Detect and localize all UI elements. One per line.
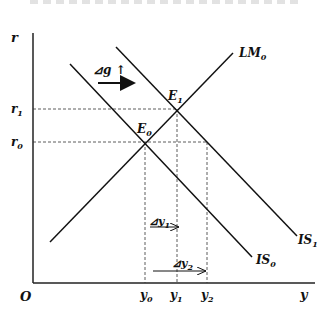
e1-label: E1 xyxy=(167,89,183,105)
r1-label: r1 xyxy=(11,102,23,118)
lm0-curve xyxy=(50,53,233,242)
is0-label: IS0 xyxy=(255,253,276,269)
y1-label: y1 xyxy=(169,288,183,304)
delta-y1-label: ⊿y1 xyxy=(149,215,170,230)
delta-g-label: ⊿g ↑ xyxy=(93,63,126,77)
y-axis-label: r xyxy=(11,30,19,45)
delta-y2-label: ⊿y2 xyxy=(172,257,193,272)
e0-label: E0 xyxy=(136,122,152,138)
is-lm-diagram: r O y r1 r0 y0 y1 y2 LM0 IS1 IS0 E1 E0 ⊿… xyxy=(0,0,328,312)
r0-label: r0 xyxy=(11,135,23,151)
is1-label: IS1 xyxy=(297,233,318,249)
lm0-label: LM0 xyxy=(238,46,267,62)
y2-label: y2 xyxy=(200,288,214,304)
origin-label: O xyxy=(20,289,32,304)
x-axis-label: y xyxy=(299,287,309,302)
y0-label: y0 xyxy=(139,288,153,304)
